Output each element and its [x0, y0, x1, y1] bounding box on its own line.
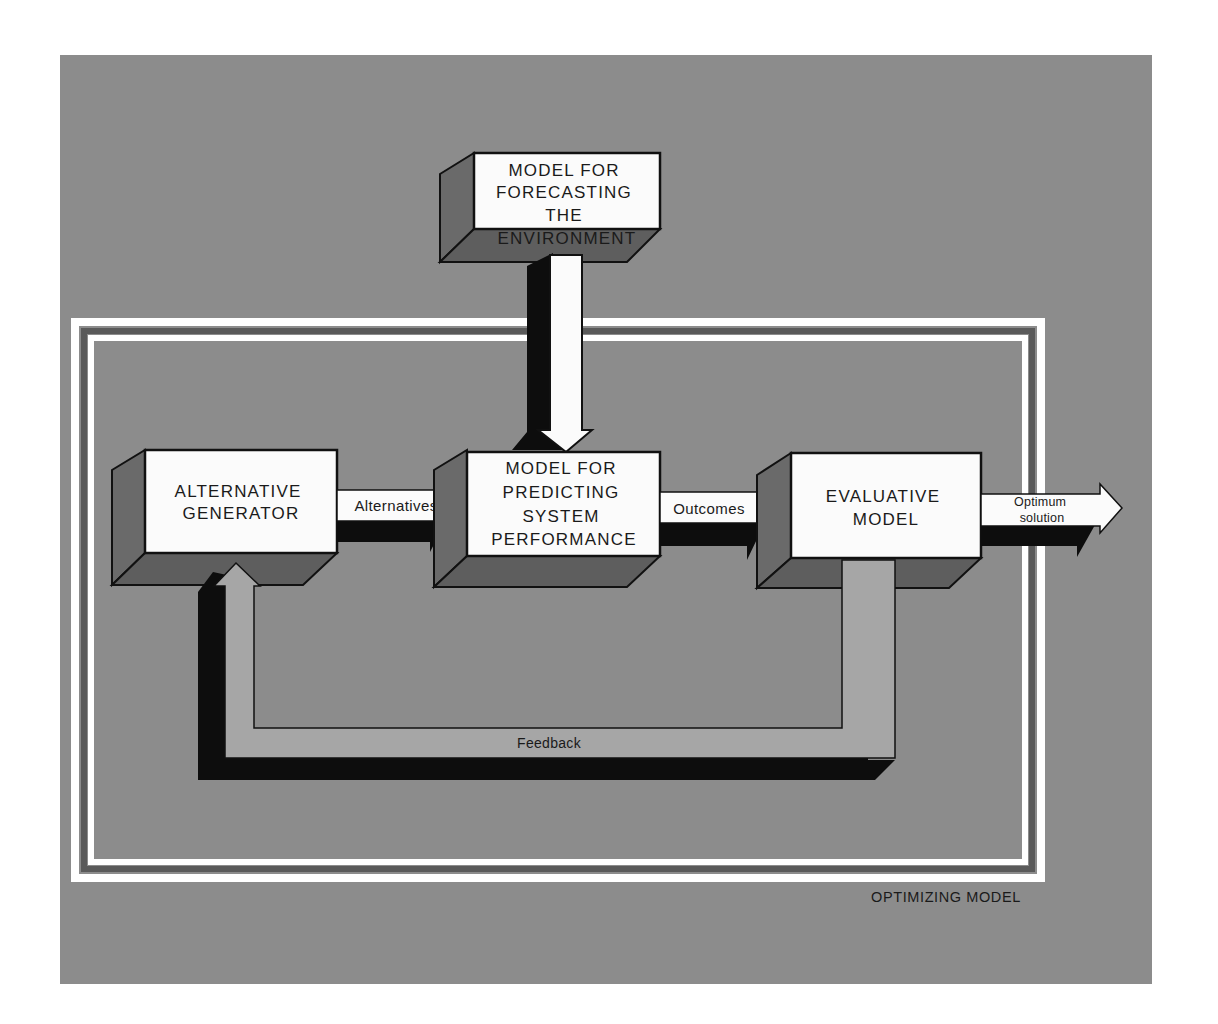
forecast-line-1: MODEL FOR	[508, 161, 619, 180]
outcomes-label: Outcomes	[673, 500, 745, 517]
predict-line-1: MODEL FOR	[505, 459, 616, 478]
forecast-line-3: THE	[545, 206, 583, 225]
evaluative-line-1: EVALUATIVE	[826, 487, 940, 506]
forecast-line-2: FORECASTING	[496, 183, 632, 202]
evaluative-line-2: MODEL	[853, 510, 919, 529]
alternative-generator-node[interactable]: ALTERNATIVE GENERATOR	[112, 450, 337, 585]
predict-line-3: SYSTEM	[522, 507, 599, 526]
predict-node[interactable]: MODEL FOR PREDICTING SYSTEM PERFORMANCE	[434, 450, 660, 587]
generator-line-1: ALTERNATIVE	[175, 482, 302, 501]
forecast-node[interactable]: MODEL FOR FORECASTING THE ENVIRONMENT	[440, 153, 660, 262]
alternatives-label: Alternatives	[354, 497, 437, 514]
predict-line-4: PERFORMANCE	[491, 530, 636, 549]
optimizing-model-diagram: OPTIMIZING MODEL MODEL FOR FORECASTING T…	[0, 0, 1218, 1024]
generator-line-2: GENERATOR	[183, 504, 300, 523]
predict-line-2: PREDICTING	[503, 483, 620, 502]
optimum-line-1: Optimum	[1014, 495, 1066, 509]
forecast-line-4: ENVIRONMENT	[498, 229, 637, 248]
optimum-line-2: solution	[1020, 511, 1065, 525]
frame-label: OPTIMIZING MODEL	[871, 889, 1021, 905]
feedback-label: Feedback	[517, 735, 582, 751]
